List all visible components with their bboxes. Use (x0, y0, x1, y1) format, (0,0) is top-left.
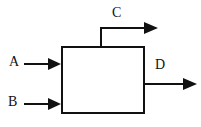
stream-label-d: D (155, 58, 165, 72)
stream-d-arrow (144, 78, 197, 90)
stream-b-arrowhead (48, 98, 61, 110)
stream-label-b: B (8, 95, 17, 109)
stream-c-arrow (101, 22, 158, 47)
stream-label-a: A (9, 55, 19, 69)
stream-c-line (101, 28, 150, 47)
stream-label-c: C (112, 6, 121, 20)
diagram-canvas: A B C D (0, 0, 201, 127)
diagram-svg (0, 0, 201, 127)
stream-d-arrowhead (183, 78, 197, 90)
stream-a-arrow (24, 58, 61, 70)
process-block (62, 47, 144, 113)
stream-c-arrowhead (144, 22, 158, 34)
stream-a-arrowhead (48, 58, 61, 70)
stream-b-arrow (24, 98, 61, 110)
